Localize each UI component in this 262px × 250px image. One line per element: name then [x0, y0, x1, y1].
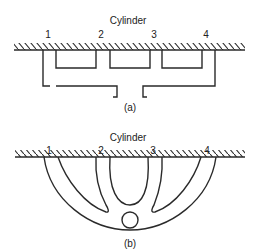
outer-pipe-left [43, 50, 117, 97]
cylinder-title-a: Cylinder [110, 15, 147, 26]
outer-pipe-right [143, 50, 215, 97]
outlet-circle [122, 212, 138, 228]
port-label-2-a: 2 [98, 29, 104, 40]
caption-a: (a) [124, 102, 136, 113]
cylinder-wall-hatching-b [15, 150, 245, 157]
outer-manifold-arc [44, 157, 216, 230]
passage-1-2 [56, 50, 96, 68]
port-label-4-a: 4 [203, 29, 209, 40]
manifold-diagrams: Cylinder 1 2 3 4 (a) Cylinder 1 2 3 4 (b… [0, 0, 262, 250]
cylinder-title-b: Cylinder [110, 132, 147, 143]
branch-right [152, 157, 201, 212]
cylinder-wall-hatching-a [14, 43, 245, 50]
passage-3-4 [162, 50, 202, 68]
figure-b: Cylinder 1 2 3 4 (b) [15, 132, 245, 249]
port-label-3-a: 3 [151, 29, 157, 40]
branch-left [58, 157, 108, 212]
figure-a: Cylinder 1 2 3 4 (a) [14, 15, 245, 113]
caption-b: (b) [124, 238, 136, 249]
passage-2-3 [110, 50, 150, 68]
port-label-1-a: 1 [45, 29, 51, 40]
branch-middle [110, 157, 149, 205]
